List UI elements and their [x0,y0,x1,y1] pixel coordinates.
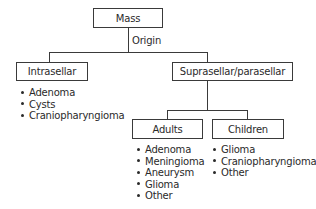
bullet-icon [213,171,216,174]
bullet-icon [213,159,216,162]
bullet-icon [21,114,24,117]
connector-root-vertical [128,28,129,52]
list-item: Glioma [212,144,316,156]
node-children-label: Children [228,124,268,135]
node-children: Children [212,119,284,139]
node-suprasellar: Suprasellar/parasellar [172,62,293,81]
list-item: Meningioma [136,156,204,168]
intrasellar-list: Adenoma Cysts Craniopharyngioma [20,87,124,122]
bullet-icon [137,148,140,151]
bullet-icon [21,102,24,105]
connector-to-children [247,110,248,119]
node-intrasellar: Intrasellar [16,62,88,81]
list-item: Adenoma [136,144,204,156]
node-mass: Mass [93,8,163,28]
connector-to-suprasellar [207,52,208,62]
children-list: Glioma Craniopharyngioma Other [212,144,316,179]
node-intrasellar-label: Intrasellar [28,66,76,77]
list-item: Aneurysm [136,167,204,179]
list-item: Other [212,167,316,179]
bullet-icon [137,159,140,162]
node-suprasellar-label: Suprasellar/parasellar [180,66,285,77]
connector-suprasellar-vertical [207,81,208,110]
node-adults-label: Adults [152,124,182,135]
edge-label-origin: Origin [132,35,161,46]
list-item: Adenoma [20,87,124,99]
connector-age-horizontal [167,110,248,111]
bullet-icon [213,148,216,151]
connector-to-adults [167,110,168,119]
bullet-icon [137,194,140,197]
bullet-icon [137,171,140,174]
adults-list: Adenoma Meningioma Aneurysm Glioma Other [136,144,204,202]
bullet-icon [21,91,24,94]
connector-to-intrasellar [49,52,50,62]
node-mass-label: Mass [116,13,140,24]
list-item: Cysts [20,99,124,111]
node-adults: Adults [132,119,203,139]
list-item: Other [136,190,204,202]
list-item: Craniopharyngioma [20,110,124,122]
bullet-icon [137,182,140,185]
list-item: Glioma [136,179,204,191]
list-item: Craniopharyngioma [212,156,316,168]
connector-origin-horizontal [49,52,208,53]
